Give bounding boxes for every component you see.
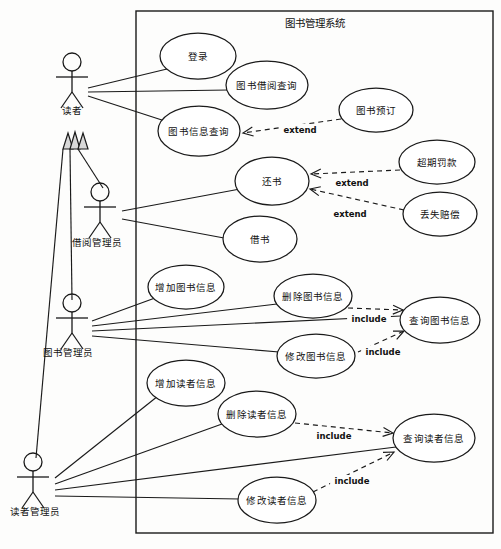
use-case-edit-book[interactable]: 修改图书信息 xyxy=(277,334,355,378)
dep-editreader-incl-stereotype-label: include xyxy=(335,476,370,486)
association-loan-admin-to-borrow-book xyxy=(122,219,224,238)
dep-lost-extend-arrowhead xyxy=(310,187,321,196)
actor-book-admin[interactable]: 图书管理员 xyxy=(43,294,93,358)
actor-reader[interactable]: 读者 xyxy=(56,53,88,116)
use-case-label-book-reserve: 图书预订 xyxy=(356,105,397,116)
use-case-label-overdue-fine: 超期罚款 xyxy=(417,157,458,168)
association-reader-to-login xyxy=(88,69,167,88)
association-book-admin-to-add-book xyxy=(92,298,155,321)
use-case-label-loan-query: 图书借阅查询 xyxy=(236,80,297,91)
association-reader-to-loan-query xyxy=(88,90,229,92)
use-case-del-reader[interactable]: 删除读者信息 xyxy=(218,391,296,437)
use-case-label-query-reader: 查询读者信息 xyxy=(403,433,464,444)
association-loan-admin-to-return-book xyxy=(122,189,240,211)
association-book-admin-to-edit-book xyxy=(92,336,279,352)
actor-head-reader-admin[interactable] xyxy=(24,453,42,471)
actor-label-loan-admin: 借阅管理员 xyxy=(72,237,122,248)
actor-label-reader: 读者 xyxy=(62,105,82,116)
use-case-book-info-query[interactable]: 图书信息查询 xyxy=(158,106,240,156)
actor-label-book-admin: 图书管理员 xyxy=(43,347,93,358)
actor-label-reader-admin: 读者管理员 xyxy=(10,506,60,517)
use-case-label-del-book: 删除图书信息 xyxy=(282,291,343,302)
use-case-diagram: 图书管理系统 登录图书借阅查询图书信息查询图书预订还书超期罚款丢失赔偿借书增加图… xyxy=(0,0,501,549)
dep-fine-extend-line xyxy=(311,170,400,174)
association-reader-admin-to-del-reader xyxy=(55,424,222,484)
dep-editreader-incl-arrowhead xyxy=(383,452,394,461)
use-case-add-book[interactable]: 增加图书信息 xyxy=(148,265,224,309)
dep-lost-extend-line xyxy=(310,189,404,210)
dep-fine-extend-stereotype-label: extend xyxy=(335,178,368,188)
system-boundary-title: 图书管理系统 xyxy=(285,17,346,29)
actor-loan-admin[interactable]: 借阅管理员 xyxy=(72,183,122,248)
use-case-label-query-book: 查询图书信息 xyxy=(409,315,470,326)
generalization-line-loan-admin xyxy=(78,149,103,188)
use-case-label-return-book: 还书 xyxy=(262,176,282,187)
uml-canvas: 图书管理系统 登录图书借阅查询图书信息查询图书预订还书超期罚款丢失赔偿借书增加图… xyxy=(0,0,501,549)
use-case-label-add-book: 增加图书信息 xyxy=(155,282,216,293)
use-case-overdue-fine[interactable]: 超期罚款 xyxy=(399,140,475,184)
use-case-query-book[interactable]: 查询图书信息 xyxy=(400,297,480,343)
use-case-return-book[interactable]: 还书 xyxy=(235,157,309,205)
dep-editbook-incl-stereotype-label: include xyxy=(366,347,401,357)
use-case-login[interactable]: 登录 xyxy=(160,33,236,79)
use-case-borrow-book[interactable]: 借书 xyxy=(223,216,297,262)
use-case-query-reader[interactable]: 查询读者信息 xyxy=(393,414,475,462)
generalization-arrowhead-3 xyxy=(78,133,88,149)
use-case-label-book-info-query: 图书信息查询 xyxy=(168,126,229,137)
use-case-book-reserve[interactable]: 图书预订 xyxy=(339,88,413,132)
use-case-label-lost-compensate: 丢失赔偿 xyxy=(420,209,461,220)
dep-reserve-extend-arrowhead xyxy=(243,127,254,136)
use-case-label-edit-reader: 修改读者信息 xyxy=(246,495,307,506)
use-case-label-login: 登录 xyxy=(188,51,208,62)
association-reader-to-book-info-query xyxy=(88,96,168,122)
actor-head-reader[interactable] xyxy=(63,53,81,71)
use-case-label-edit-book: 修改图书信息 xyxy=(285,351,346,362)
generalization-line-reader-admin xyxy=(36,149,63,458)
use-case-label-add-reader: 增加读者信息 xyxy=(155,378,216,389)
dep-reserve-extend-stereotype-label: extend xyxy=(283,125,316,135)
dep-delbook-incl-stereotype-label: include xyxy=(352,314,387,324)
dep-delreader-incl-stereotype-label: include xyxy=(317,431,352,441)
use-case-del-book[interactable]: 删除图书信息 xyxy=(274,274,352,318)
use-case-edit-reader[interactable]: 修改读者信息 xyxy=(238,477,316,523)
actor-shapes: 读者借阅管理员图书管理员读者管理员 xyxy=(10,53,122,517)
generalization-line-book-admin xyxy=(70,149,72,300)
actor-head-loan-admin[interactable] xyxy=(91,183,109,201)
actor-reader-admin[interactable]: 读者管理员 xyxy=(10,453,60,517)
use-case-label-del-reader: 删除读者信息 xyxy=(226,409,287,420)
use-case-add-reader[interactable]: 增加读者信息 xyxy=(147,360,225,406)
use-case-shapes: 登录图书借阅查询图书信息查询图书预订还书超期罚款丢失赔偿借书增加图书信息删除图书… xyxy=(147,33,480,523)
use-case-loan-query[interactable]: 图书借阅查询 xyxy=(226,61,308,109)
dep-lost-extend-stereotype-label: extend xyxy=(333,209,366,219)
association-reader-admin-to-edit-reader xyxy=(55,496,240,499)
dep-delbook-incl-line xyxy=(348,308,403,310)
use-case-lost-compensate[interactable]: 丢失赔偿 xyxy=(403,192,477,236)
use-case-label-borrow-book: 借书 xyxy=(250,234,270,245)
